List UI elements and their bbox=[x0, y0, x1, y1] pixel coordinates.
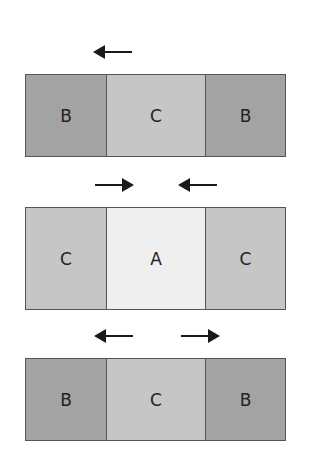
row-2-strip: C A C bbox=[25, 207, 286, 310]
row-3-strip: B C B bbox=[25, 358, 286, 441]
cell-b: B bbox=[205, 75, 285, 156]
arrow-right-icon bbox=[180, 329, 220, 343]
cell-c: C bbox=[26, 208, 106, 309]
cell-c: C bbox=[205, 208, 285, 309]
arrow-left-icon bbox=[94, 329, 134, 343]
arrow-left-icon bbox=[93, 45, 133, 59]
cell-c: C bbox=[106, 359, 205, 440]
cell-b: B bbox=[26, 75, 106, 156]
cell-b: B bbox=[205, 359, 285, 440]
arrow-right-icon bbox=[94, 178, 134, 192]
arrow-left-icon bbox=[178, 178, 218, 192]
cell-a: A bbox=[106, 208, 205, 309]
cell-b: B bbox=[26, 359, 106, 440]
cell-c: C bbox=[106, 75, 205, 156]
row-1-strip: B C B bbox=[25, 74, 286, 157]
